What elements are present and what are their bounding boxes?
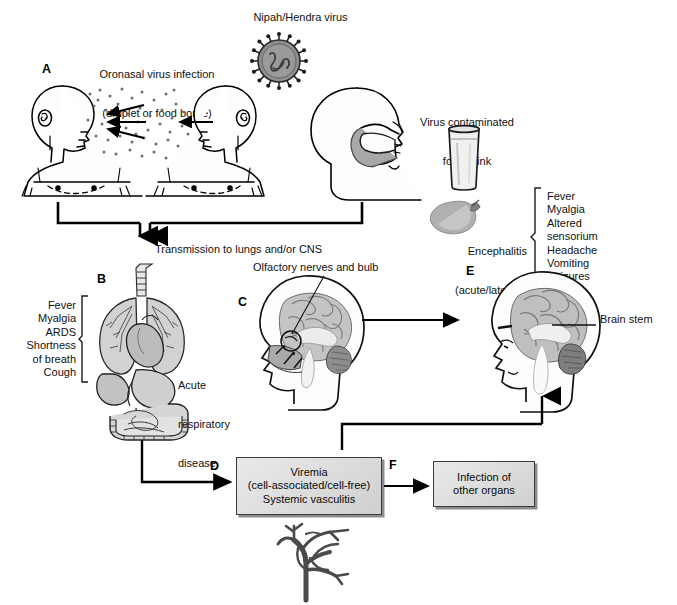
symptom-item: Fever [10, 299, 76, 312]
other-organs-box[interactable]: Infection of other organs [433, 461, 535, 507]
brain-stem-label: Brain stem [600, 313, 653, 326]
respiratory-symptoms-list: Fever Myalgia ARDS Shortness of breath C… [10, 299, 76, 379]
panel-letter-f: F [389, 458, 397, 472]
arrow-viremia-to-organs [384, 478, 436, 494]
encephalitis-line1: Encephalitis [455, 245, 527, 258]
symptom-item: Myalgia [10, 312, 76, 325]
symptom-item: Myalgia [547, 203, 647, 216]
symptom-item: Cough [10, 366, 76, 379]
viremia-line3: Systemic vasculitis [248, 493, 370, 507]
viremia-line1: Viremia [248, 466, 370, 480]
symptom-item: Fever [547, 190, 647, 203]
viremia-line2: (cell-associated/cell-free) [248, 479, 370, 493]
panel-letter-a: A [42, 62, 51, 76]
symptom-item: Headache [547, 244, 647, 257]
other-organs-line1: Infection of [453, 471, 515, 485]
viremia-box-text: Viremia (cell-associated/cell-free) Syst… [242, 464, 376, 509]
respiratory-bracket-icon [78, 294, 92, 384]
arrow-c-to-e [362, 310, 466, 330]
arrow-gut-to-viremia [138, 438, 238, 490]
symptom-item: ARDS [10, 326, 76, 339]
transmission-label: Transmission to lungs and/or CNS [155, 243, 322, 256]
transmission-arrows-icon [88, 100, 288, 150]
symptom-item: Altered [547, 217, 647, 230]
viremia-to-brain-connector [332, 382, 572, 454]
drinking-glass-icon [444, 125, 484, 193]
symptom-item: of breath [10, 353, 76, 366]
viremia-box[interactable]: Viremia (cell-associated/cell-free) Syst… [236, 457, 382, 515]
figure-canvas: Oronasal virus infection (droplet or foo… [0, 0, 677, 605]
acute-resp-line1: Acute [178, 379, 230, 392]
symptom-item: sensorium [547, 230, 647, 243]
acute-resp-line2: respiratory [178, 418, 230, 431]
virus-particle-label: Nipah/Hendra virus [233, 11, 368, 24]
brain-stem-pointer [552, 318, 602, 332]
head-ingestion-icon [305, 82, 425, 200]
other-organs-box-text: Infection of other organs [447, 469, 521, 500]
panel-letter-c: C [238, 295, 247, 309]
blood-vessel-branch-icon [262, 518, 372, 602]
panel-letter-d: D [210, 459, 219, 473]
other-organs-line2: other organs [453, 484, 515, 498]
symptom-item: Shortness [10, 339, 76, 352]
